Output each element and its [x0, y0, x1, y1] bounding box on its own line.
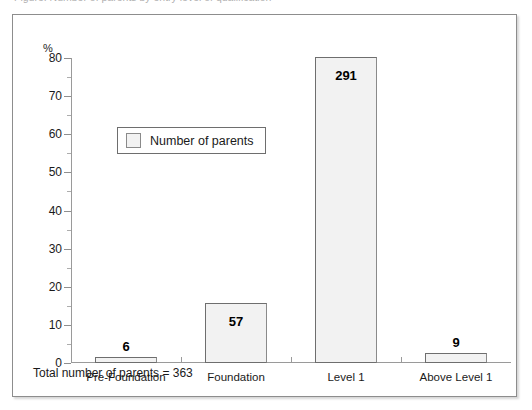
x-category-label: Level 1 — [327, 371, 364, 383]
y-tick-40 — [64, 211, 71, 212]
bar-value-label: 57 — [229, 314, 243, 329]
total-parents-note: Total number of parents = 363 — [33, 366, 193, 380]
legend-label-number-of-parents: Number of parents — [150, 134, 254, 148]
category-slot: 291Level 1 — [291, 58, 401, 363]
y-tick-label-50: 50 — [49, 165, 62, 179]
y-tick-label-20: 20 — [49, 280, 62, 294]
y-tick-10 — [64, 325, 71, 326]
clipped-caption: Figure: Number of parents by entry level… — [14, 0, 514, 3]
y-tick-label-60: 60 — [49, 127, 62, 141]
bar[interactable]: 6 — [95, 357, 157, 363]
y-tick-label-80: 80 — [49, 51, 62, 65]
bar-value-label: 6 — [122, 339, 129, 354]
y-tick-80 — [64, 58, 71, 59]
bar-value-label: 9 — [452, 335, 459, 350]
bar[interactable]: 9 — [425, 353, 487, 363]
y-tick-70 — [64, 96, 71, 97]
bar[interactable]: 57 — [205, 303, 267, 363]
legend-swatch-number-of-parents — [126, 133, 141, 148]
y-tick-label-30: 30 — [49, 242, 62, 256]
y-tick-50 — [64, 172, 71, 173]
y-tick-0 — [64, 363, 71, 364]
figure-frame: % 01020304050607080 6Pre-Foundation57Fou… — [12, 14, 517, 397]
category-slot: 9Above Level 1 — [401, 58, 511, 363]
y-tick-label-10: 10 — [49, 318, 62, 332]
y-tick-20 — [64, 287, 71, 288]
x-category-label: Above Level 1 — [420, 371, 493, 383]
plot-area: 01020304050607080 6Pre-Foundation57Found… — [71, 58, 511, 363]
category-slot: 6Pre-Foundation — [71, 58, 181, 363]
y-tick-label-40: 40 — [49, 204, 62, 218]
chart-legend: Number of parents — [117, 127, 266, 154]
bar[interactable]: 291 — [315, 57, 377, 363]
y-tick-60 — [64, 134, 71, 135]
y-tick-30 — [64, 249, 71, 250]
x-category-label: Foundation — [207, 371, 265, 383]
y-tick-label-70: 70 — [49, 89, 62, 103]
bar-value-label: 291 — [335, 68, 357, 83]
category-slot: 57Foundation — [181, 58, 291, 363]
